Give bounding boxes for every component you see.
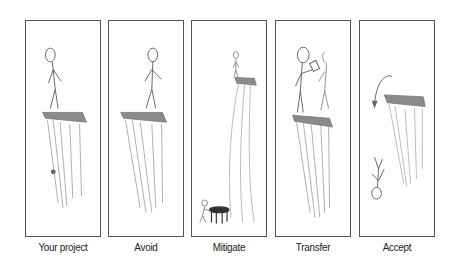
helper-stick-figure-icon: [200, 200, 210, 222]
stick-figure-icon: [295, 47, 313, 112]
cliff: [121, 112, 167, 212]
panel-transfer: [275, 20, 351, 237]
your-project-illustration: [26, 21, 100, 236]
stick-figure-icon: [145, 48, 162, 108]
transfer-illustration: [276, 21, 350, 236]
panel-your-project: [25, 20, 101, 237]
panel-label: Accept: [357, 241, 438, 253]
falling-rock-icon: [51, 169, 56, 174]
receiver-stick-figure-icon: [319, 52, 329, 110]
panel-label: Your project: [23, 241, 104, 253]
stick-figure-icon: [233, 52, 239, 78]
panel-label: Transfer: [273, 241, 354, 253]
panel-avoid: [108, 20, 184, 237]
falling-stick-figure-icon: [372, 157, 385, 199]
cliff: [43, 112, 87, 207]
panel-label: Mitigate: [189, 241, 270, 253]
panel-label: Avoid: [106, 241, 187, 253]
avoid-illustration: [109, 21, 183, 236]
stick-figure-icon: [45, 48, 61, 108]
mitigate-illustration: [192, 21, 266, 236]
panel-mitigate: [191, 20, 267, 237]
panel-accept: [359, 20, 435, 237]
accept-illustration: [360, 21, 434, 236]
trampoline-icon: [210, 207, 229, 224]
arrow-head-icon: [372, 101, 378, 109]
cliff: [384, 95, 425, 187]
cliff: [229, 77, 256, 222]
cliff: [293, 115, 333, 217]
